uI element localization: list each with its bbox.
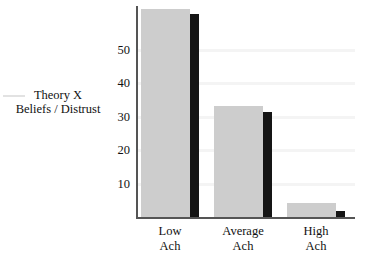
y-axis-line — [136, 6, 138, 219]
category-label-average-ach: Average Ach — [204, 224, 282, 254]
category-label-line-2: Ach — [131, 239, 209, 254]
bar-gray-average-ach — [214, 106, 263, 217]
y-axis-tick-labels: 10 20 30 40 50 — [100, 6, 130, 219]
y-axis-title-line-2: Beliefs / Distrust — [2, 102, 114, 116]
category-label-high-ach: High Ach — [277, 224, 355, 254]
y-axis-title: Theory X Beliefs / Distrust — [2, 88, 114, 116]
bar-chart: Theory X Beliefs / Distrust 10 20 30 40 … — [0, 0, 365, 265]
bar-gray-low-ach — [141, 9, 190, 217]
y-tick-label: 30 — [100, 111, 130, 123]
bar-black-low-ach — [190, 14, 199, 217]
category-label-line-1: Average — [204, 224, 282, 239]
y-tick-label: 20 — [100, 144, 130, 156]
category-label-low-ach: Low Ach — [131, 224, 209, 254]
plot-area — [136, 6, 355, 219]
x-axis-line — [136, 217, 355, 219]
y-tick-label: 10 — [100, 178, 130, 190]
x-axis-category-labels: Low Ach Average Ach High Ach — [136, 224, 355, 262]
y-axis-title-line-1: Theory X — [2, 88, 114, 102]
bar-black-average-ach — [263, 112, 272, 218]
category-label-line-2: Ach — [277, 239, 355, 254]
y-tick-label: 40 — [100, 77, 130, 89]
category-label-line-1: Low — [131, 224, 209, 239]
category-label-line-2: Ach — [204, 239, 282, 254]
category-label-line-1: High — [277, 224, 355, 239]
y-tick-label: 50 — [100, 44, 130, 56]
bar-black-high-ach — [336, 211, 345, 217]
bar-gray-high-ach — [287, 203, 336, 217]
